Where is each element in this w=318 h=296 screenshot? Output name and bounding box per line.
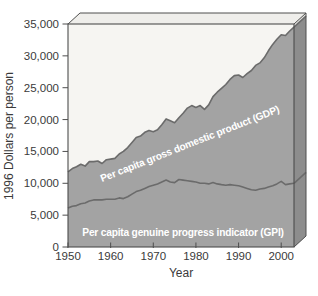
gpi-series-label: Per capita genuine progress indicator (G… <box>82 227 283 238</box>
gdp-gpi-area-chart: 35,00030,00025,00020,00015,00010,0005,00… <box>0 0 318 296</box>
top-face <box>68 13 306 24</box>
y-tick-label: 5,000 <box>30 209 59 221</box>
y-tick-label: 15,000 <box>24 145 59 157</box>
y-tick-label: 30,000 <box>24 50 59 62</box>
y-tick-label: 35,000 <box>24 18 59 30</box>
x-tick-label: 1980 <box>183 250 209 262</box>
y-tick-label: 10,000 <box>24 177 59 189</box>
y-tick-label: 25,000 <box>24 82 59 94</box>
y-tick-label: 20,000 <box>24 114 59 126</box>
gdp-area-side <box>294 16 306 247</box>
x-tick-label: 1950 <box>55 250 81 262</box>
x-axis-title: Year <box>169 266 193 280</box>
x-tick-label: 1990 <box>226 250 252 262</box>
x-tick-label: 2000 <box>268 250 294 262</box>
y-axis-title: 1996 Dollars per person <box>2 72 16 200</box>
x-tick-label: 1970 <box>140 250 166 262</box>
chart-canvas: 35,00030,00025,00020,00015,00010,0005,00… <box>0 0 318 296</box>
x-tick-label: 1960 <box>98 250 124 262</box>
